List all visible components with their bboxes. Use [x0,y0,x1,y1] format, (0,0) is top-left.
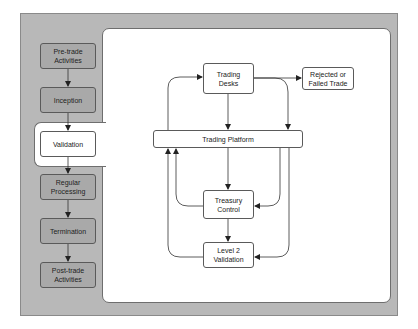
flow-arrows [0,0,418,329]
